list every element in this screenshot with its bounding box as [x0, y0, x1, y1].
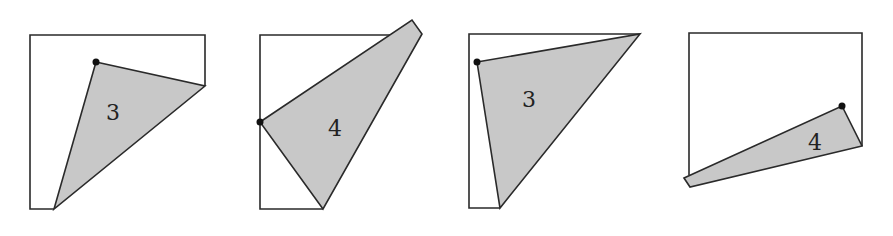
figure-4: 4: [684, 33, 862, 187]
folded-region: [54, 62, 205, 209]
fold-count-label: 4: [808, 130, 822, 155]
vertex-dot: [839, 103, 846, 110]
folding-diagram: 3 4 3 4: [0, 0, 893, 236]
folded-region: [477, 34, 640, 208]
fold-count-label: 3: [522, 87, 536, 112]
fold-count-label: 3: [106, 100, 120, 125]
vertex-dot: [474, 59, 481, 66]
vertex-dot: [93, 59, 100, 66]
figure-3: 3: [469, 34, 640, 208]
figure-2: 4: [257, 20, 423, 209]
figure-1: 3: [30, 35, 205, 209]
folded-region: [260, 20, 422, 209]
vertex-dot: [257, 119, 264, 126]
fold-count-label: 4: [328, 116, 342, 141]
folded-region: [684, 106, 862, 187]
